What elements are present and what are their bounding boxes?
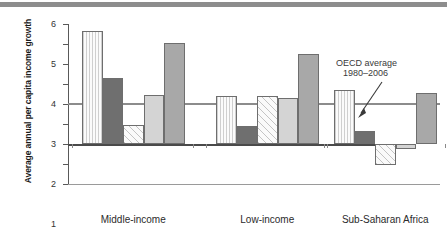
- bar: [144, 95, 165, 144]
- y-tick: 5: [63, 44, 68, 45]
- group-tick: [193, 144, 194, 148]
- oecd-annotation-line2: 1980–2006: [343, 68, 388, 79]
- bar: [82, 31, 103, 144]
- bar: [164, 43, 185, 144]
- oecd-annotation-arrow: [352, 80, 388, 122]
- bar: [416, 93, 437, 144]
- y-tick-label: 2: [51, 179, 56, 189]
- bar: [103, 78, 124, 144]
- bar: [396, 144, 417, 149]
- y-tick: −2: [63, 184, 68, 185]
- group-tick: [445, 144, 446, 148]
- y-tick: 3: [63, 84, 68, 85]
- y-tick-label: 5: [51, 59, 56, 69]
- category-label: Low-income: [240, 214, 294, 225]
- y-tick-label: 6: [51, 19, 56, 29]
- bar: [257, 96, 278, 144]
- y-tick-label: 1: [51, 219, 56, 229]
- bar: [216, 96, 237, 144]
- zero-baseline: [68, 144, 406, 146]
- bar: [237, 126, 258, 144]
- y-tick: 4: [63, 64, 68, 65]
- category-label: Middle-income: [101, 214, 166, 225]
- chart-figure: Average annual per capita income growth …: [0, 0, 447, 241]
- y-tick: −1: [63, 164, 68, 165]
- bar: [278, 98, 299, 144]
- y-tick-label: 3: [51, 139, 56, 149]
- y-tick-label: 4: [51, 99, 56, 109]
- group-tick: [206, 144, 207, 148]
- page-top-rule: [0, 2, 447, 7]
- group-tick: [72, 144, 73, 148]
- bar: [123, 125, 144, 144]
- x-axis-line: [68, 184, 440, 185]
- group-tick: [327, 144, 328, 148]
- group-tick: [324, 144, 325, 148]
- y-tick: 6: [63, 24, 68, 25]
- bar: [375, 144, 396, 165]
- category-label: Sub-Saharan Africa: [342, 214, 429, 225]
- bar: [355, 131, 376, 144]
- bar: [298, 54, 319, 144]
- y-tick: 1: [63, 124, 68, 125]
- y-axis-title: Average annual per capita income growth: [23, 11, 33, 191]
